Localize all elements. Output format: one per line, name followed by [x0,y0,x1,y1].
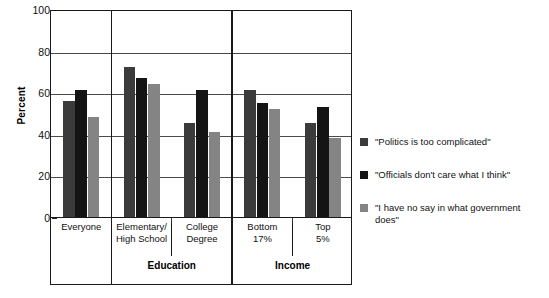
y-axis-ticks: 100806040200 [8,0,50,298]
legend-item[interactable]: "Politics is too complicated" [360,136,491,148]
bracket-label: Income [232,260,353,271]
legend-label: "I have no say in what government does" [375,202,546,225]
legend-item[interactable]: "I have no say in what government does" [360,202,546,225]
category-label: Bottom17% [232,221,292,244]
legend-swatch-icon [360,171,368,179]
bar [63,101,75,217]
bar [124,67,136,217]
category-label: CollegeDegree [172,221,232,244]
y-tick-label: 60 [16,88,50,98]
bar [257,103,269,217]
bar [136,78,148,217]
y-tick-label: 100 [16,5,50,15]
y-tick-label: 80 [16,47,50,57]
bar [148,84,160,217]
group-divider [111,11,113,217]
bar-chart: Percent 100806040200 EveryoneElementary/… [0,0,549,298]
legend-item[interactable]: "Officials don't care what I think" [360,169,510,181]
legend-label: "Officials don't care what I think" [375,169,510,181]
category-label: Top5% [293,221,353,244]
plot-area [50,10,352,218]
y-tick-label: 0 [16,213,50,223]
group-divider [231,11,233,217]
bar [269,109,281,217]
category-label: Elementary/High School [111,221,171,244]
bar [244,90,256,217]
bar [329,138,341,217]
bar [184,123,196,217]
bar [317,107,329,217]
legend-swatch-icon [360,204,368,212]
gridline [51,53,351,54]
category-label: Everyone [51,221,111,233]
bar [305,123,317,217]
y-tick-label: 40 [16,130,50,140]
legend-label: "Politics is too complicated" [375,136,491,148]
bar [209,132,221,217]
bar [196,90,208,217]
bar [75,90,87,217]
y-tick-label: 20 [16,171,50,181]
legend-swatch-icon [360,138,368,146]
category-label-box: EveryoneElementary/High SchoolCollegeDeg… [50,218,352,285]
bracket-label: Education [111,260,232,271]
bar [88,117,100,217]
